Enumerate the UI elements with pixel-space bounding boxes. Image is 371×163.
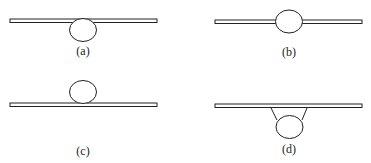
panel-d: (d)	[215, 104, 362, 156]
label-c: (c)	[76, 144, 89, 158]
panel-c: (c)	[10, 81, 157, 159]
neck-right	[302, 108, 307, 120]
label-b: (b)	[282, 45, 296, 59]
label-a: (a)	[76, 44, 89, 58]
bubble-c	[70, 81, 97, 104]
label-d: (d)	[282, 142, 296, 156]
diagram-figure: (a) (b) (c) (d)	[0, 0, 371, 163]
bubble-b	[276, 10, 303, 33]
bubble-a	[70, 19, 97, 42]
bubble-d	[276, 116, 303, 139]
panel-b: (b)	[215, 10, 362, 59]
bar-d	[215, 104, 362, 108]
panel-a: (a)	[10, 19, 157, 59]
neck-left	[271, 108, 277, 120]
